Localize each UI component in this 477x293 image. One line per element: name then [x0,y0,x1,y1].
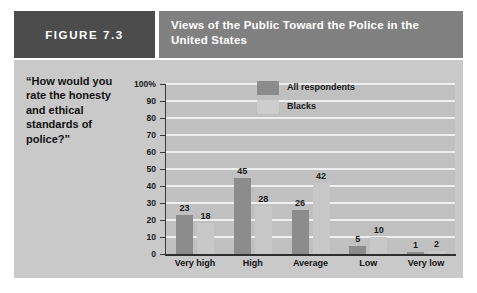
y-axis-tick-label: 0 [116,250,156,258]
bar [197,223,214,254]
y-axis-tick [160,186,165,187]
bar [255,206,272,254]
y-axis-tick [160,254,165,255]
bar-value-label: 42 [307,172,336,181]
y-axis-tick [160,84,165,85]
y-axis-tick-label: 40 [116,182,156,190]
figure-body-panel: “How would you rate the honesty and ethi… [14,60,463,278]
figure-number-label: FIGURE 7.3 [45,29,124,41]
legend-swatch-icon [257,100,279,114]
category-label: Very high [166,258,224,268]
y-axis-tick [160,237,165,238]
bar-value-label: 28 [249,195,278,204]
category-label: Average [282,258,340,268]
bar [292,210,309,254]
gridline [166,134,455,136]
y-axis-tick-label: 80 [116,114,156,122]
legend-swatch-icon [257,81,279,95]
category-label: Very low [397,258,455,268]
gridline [166,117,455,119]
bar-chart: 0102030405060708090100% 2318452826425101… [126,76,463,278]
y-axis-tick-label: 50 [116,165,156,173]
figure-number-badge: FIGURE 7.3 [14,11,155,58]
bar-value-label: 18 [191,212,220,221]
y-axis-tick-label: 70 [116,131,156,139]
bar [349,246,366,255]
gridline [166,185,455,187]
gridline [166,151,455,153]
y-axis-tick-label: 30 [116,199,156,207]
bar [407,252,424,254]
y-axis-tick-label: 90 [116,97,156,105]
y-axis-tick-label: 60 [116,148,156,156]
bar [370,237,387,254]
y-axis-tick-label: 100% [116,80,156,88]
x-axis-line [165,254,456,256]
bar-value-label: 26 [286,199,315,208]
question-caption: “How would you rate the honesty and ethi… [26,74,130,146]
category-label: Low [339,258,397,268]
y-axis-tick [160,203,165,204]
y-axis-tick [160,135,165,136]
bar-value-label: 45 [228,167,257,176]
gridline [166,168,455,170]
y-axis-tick-label: 10 [116,233,156,241]
y-axis-tick [160,169,165,170]
y-axis-tick [160,118,165,119]
bar-value-label: 10 [364,226,393,235]
legend-label: Blacks [287,101,316,111]
y-axis-tick [160,152,165,153]
legend-label: All respondents [287,82,355,92]
y-axis-tick [160,220,165,221]
bar [313,183,330,254]
y-axis-tick [160,101,165,102]
y-axis-tick-label: 20 [116,216,156,224]
category-label: High [224,258,282,268]
bar-value-label: 5 [343,235,372,244]
figure-title: Views of the Public Toward the Police in… [171,18,453,48]
bar-value-label: 2 [422,240,451,249]
figure-container: FIGURE 7.3 Views of the Public Toward th… [14,11,463,278]
bar [428,251,445,254]
figure-header: FIGURE 7.3 Views of the Public Toward th… [14,11,463,58]
bar [234,178,251,255]
figure-title-band: Views of the Public Toward the Police in… [159,11,463,58]
